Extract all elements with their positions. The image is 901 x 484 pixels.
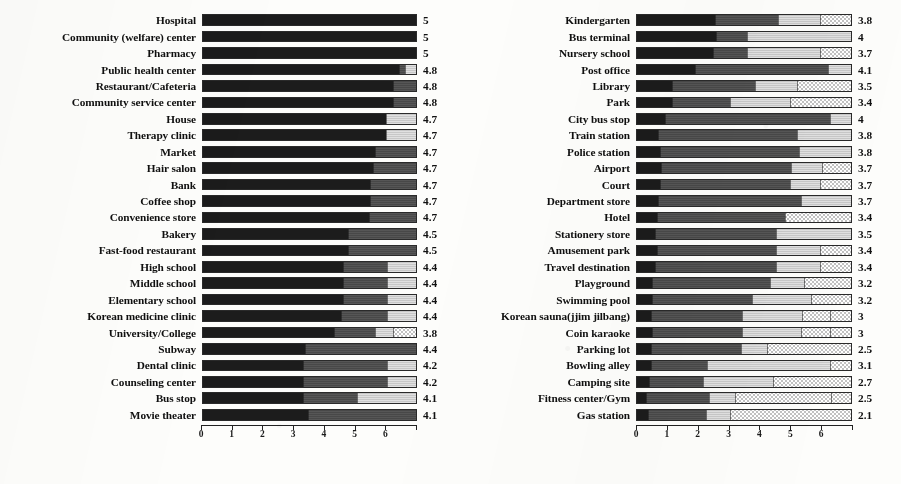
bar-segment-1: [637, 311, 651, 321]
stacked-bar: [636, 179, 852, 191]
bar-row-label: Train station: [450, 129, 636, 141]
bar-row: University/College3.8: [0, 324, 450, 340]
stacked-bar: [202, 179, 417, 191]
bar-row-label: Bank: [0, 179, 202, 191]
bar-segment-1: [637, 278, 652, 288]
stacked-bar: [636, 310, 852, 322]
bar-value-label: 4.4: [417, 277, 437, 289]
bar-row-label: Coin karaoke: [450, 327, 636, 339]
bar-segment-2: [343, 278, 387, 288]
bar-value-label: 4.7: [417, 162, 437, 174]
bar-row: Hair salon4.7: [0, 160, 450, 176]
bar-segment-3: [742, 311, 802, 321]
left-x-axis: 0123456: [201, 425, 416, 445]
bar-segment-2: [655, 229, 776, 239]
bar-row-label: University/College: [0, 327, 202, 339]
bar-segment-3: [776, 246, 820, 256]
bar-segment-3: [742, 328, 800, 338]
bar-segment-3: [797, 130, 851, 140]
bar-row: Bakery4.5: [0, 226, 450, 242]
bar-segment-3: [830, 114, 851, 124]
bar-row-label: Airport: [450, 162, 636, 174]
stacked-bar: [636, 245, 852, 257]
bar-segment-1: [637, 130, 658, 140]
stacked-bar: [636, 228, 852, 240]
axis-tick-label: 6: [383, 429, 388, 439]
stacked-bar: [636, 327, 852, 339]
bar-row-label: Amusement park: [450, 244, 636, 256]
bar-segment-2: [657, 246, 776, 256]
bar-row: City bus stop4: [450, 111, 901, 127]
bar-segment-1: [203, 278, 343, 288]
bar-segment-1: [637, 295, 652, 305]
bar-segment-1: [203, 65, 399, 75]
bar-row: Bowling alley3.1: [450, 357, 901, 373]
bar-segment-2: [649, 377, 703, 387]
bar-row-label: Market: [0, 146, 202, 158]
bar-segment-2: [665, 114, 830, 124]
bar-row: Middle school4.4: [0, 275, 450, 291]
bar-segment-1: [203, 311, 341, 321]
bar-row: Coin karaoke3: [450, 324, 901, 340]
bar-value-label: 4.4: [417, 261, 437, 273]
bar-row-label: High school: [0, 261, 202, 273]
bar-row-label: Movie theater: [0, 409, 202, 421]
bar-segment-4: [393, 328, 416, 338]
bar-segment-2: [348, 246, 416, 256]
bar-segment-1: [203, 344, 305, 354]
bar-value-label: 4.8: [417, 80, 437, 92]
bar-value-label: 3.8: [852, 129, 872, 141]
bar-segment-1: [203, 410, 308, 420]
bar-row-label: Counseling center: [0, 376, 202, 388]
stacked-bar: [636, 409, 852, 421]
bar-segment-2: [660, 180, 790, 190]
bar-segment-2: [658, 196, 800, 206]
bar-value-label: 4.1: [417, 409, 437, 421]
bar-segment-2: [660, 147, 799, 157]
axis-tick-label: 1: [664, 429, 669, 439]
bar-value-label: 4.7: [417, 146, 437, 158]
bar-value-label: 4.5: [417, 228, 437, 240]
bar-row: Restaurant/Cafeteria4.8: [0, 78, 450, 94]
bar-segment-2: [343, 295, 387, 305]
bar-segment-1: [637, 114, 665, 124]
stacked-bar: [202, 64, 417, 76]
axis-tick-label: 3: [291, 429, 296, 439]
stacked-bar: [202, 277, 417, 289]
bar-segment-3: [386, 114, 416, 124]
bar-segment-4: [811, 295, 851, 305]
bar-row: Movie theater4.1: [0, 407, 450, 423]
left-bar-rows: Hospital5Community (welfare) center5Phar…: [0, 12, 450, 423]
bar-row-label: Hotel: [450, 211, 636, 223]
bar-row: High school4.4: [0, 259, 450, 275]
bar-segment-4: [797, 81, 851, 91]
bar-row-label: Court: [450, 179, 636, 191]
stacked-bar: [202, 343, 417, 355]
bar-segment-3: [386, 130, 416, 140]
bar-row: Counseling center4.2: [0, 374, 450, 390]
stacked-bar: [636, 195, 852, 207]
bar-row-label: Bus terminal: [450, 31, 636, 43]
bar-row: Post office4.1: [450, 61, 901, 77]
bar-segment-3: [747, 32, 851, 42]
bar-segment-3: [387, 377, 416, 387]
bar-value-label: 2.1: [852, 409, 872, 421]
bar-segment-4: [820, 48, 851, 58]
bar-segment-2: [652, 295, 751, 305]
stacked-bar: [202, 261, 417, 273]
stacked-bar: [636, 343, 852, 355]
stacked-bar: [202, 212, 417, 224]
stacked-bar: [202, 146, 417, 158]
bar-value-label: 4.2: [417, 359, 437, 371]
bar-row-label: Playground: [450, 277, 636, 289]
bar-row-label: Post office: [450, 64, 636, 76]
bar-row-label: Korean medicine clinic: [0, 310, 202, 322]
bar-row: Bank4.7: [0, 176, 450, 192]
bar-segment-1: [637, 344, 651, 354]
bar-row: Travel destination3.4: [450, 259, 901, 275]
bar-row: Camping site2.7: [450, 374, 901, 390]
bar-segment-4: [830, 361, 851, 371]
stacked-bar: [202, 14, 417, 26]
stacked-bar: [202, 392, 417, 404]
stacked-bar: [636, 146, 852, 158]
